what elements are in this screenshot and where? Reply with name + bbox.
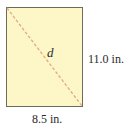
- diagonal-label: d: [47, 45, 54, 61]
- width-label: 8.5 in.: [32, 112, 62, 127]
- height-label: 11.0 in.: [88, 52, 124, 67]
- diagonal-line: [6, 7, 83, 107]
